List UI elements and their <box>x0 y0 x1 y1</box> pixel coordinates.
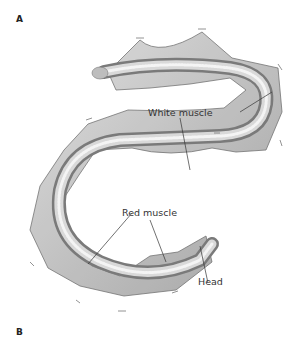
label-red-muscle: Red muscle <box>122 207 177 218</box>
tail-tip <box>92 67 108 79</box>
body-tube <box>59 65 267 273</box>
label-head: Head <box>198 276 223 287</box>
label-white-muscle: White muscle <box>148 107 213 118</box>
